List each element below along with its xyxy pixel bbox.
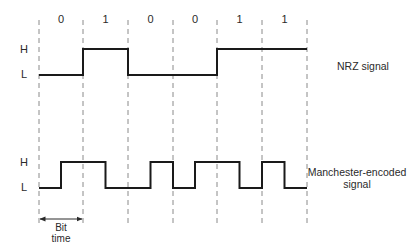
manchester-waveform: [39, 162, 307, 188]
waveform-canvas: [0, 0, 417, 252]
bit-time-label-line2: time: [52, 234, 71, 244]
bit-label-1: 1: [102, 13, 108, 25]
manchester-high-label: H: [20, 156, 28, 168]
bit-label-2: 0: [147, 13, 153, 25]
nrz-low-label: L: [21, 68, 27, 80]
bit-label-0: 0: [58, 13, 64, 25]
manchester-signal-label-line1: Manchester-encoded: [308, 166, 407, 178]
nrz-signal-label: NRZ signal: [337, 60, 389, 72]
manchester-signal-label-line2: signal: [343, 178, 370, 190]
bit-time-label-line1: Bit: [55, 223, 67, 233]
bit-label-3: 0: [192, 13, 198, 25]
manchester-low-label: L: [21, 181, 27, 193]
bit-label-5: 1: [281, 13, 287, 25]
bit-boundary-lines: [39, 20, 307, 225]
nrz-high-label: H: [20, 43, 28, 55]
nrz-vs-manchester-diagram: 0 1 0 0 1 1 H L H L NRZ signal Mancheste…: [0, 0, 417, 252]
bit-label-4: 1: [236, 13, 242, 25]
nrz-waveform: [39, 49, 307, 75]
